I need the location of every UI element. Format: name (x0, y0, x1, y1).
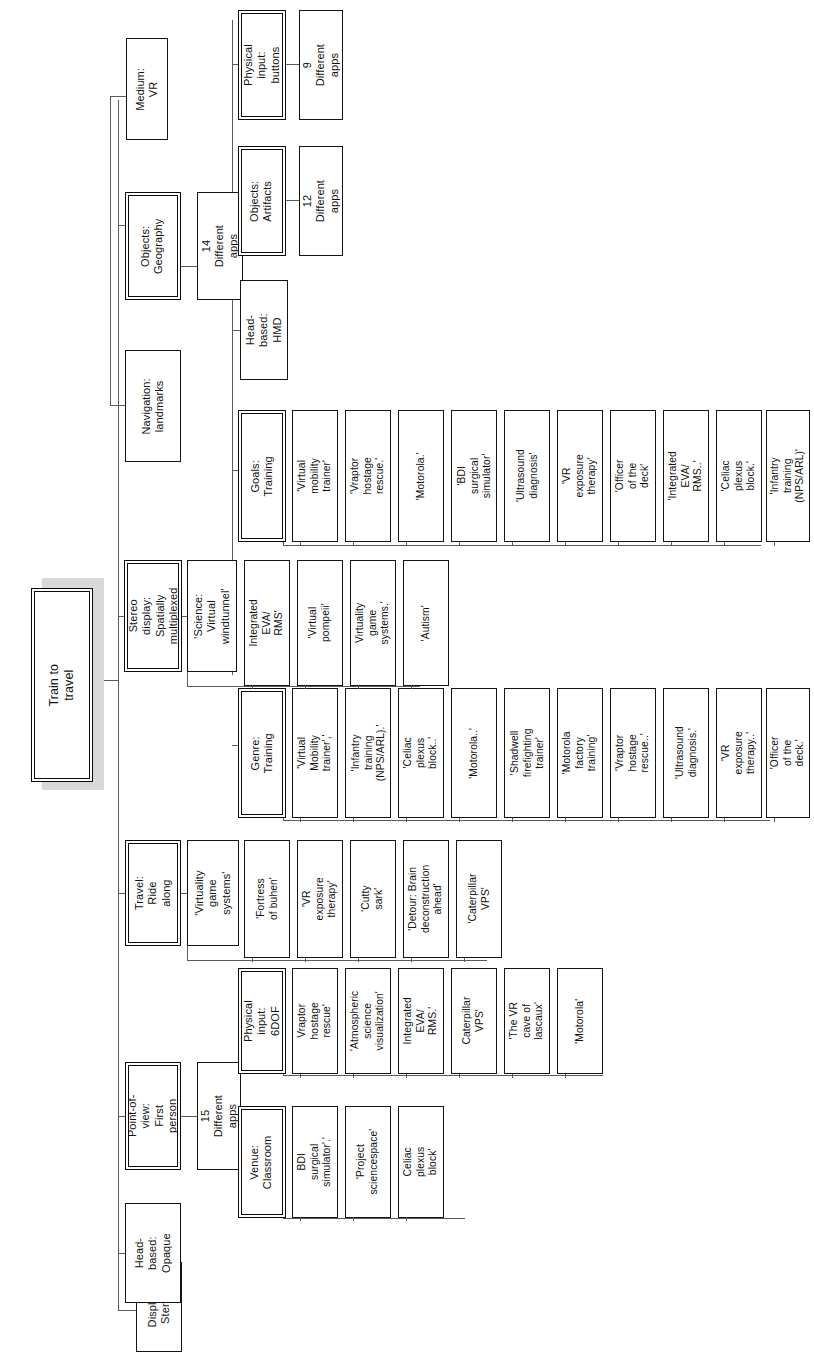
sixdof-item-0[interactable]: Vraptor hostage rescue' (292, 968, 338, 1074)
goals-item-9[interactable]: 'Infantry training (NPS/ARL)' (766, 410, 810, 542)
connector-pov-apps (180, 1116, 197, 1117)
tooth-travel-2 (358, 958, 359, 962)
goals-item-6[interactable]: 'Officer of the deck' (610, 410, 656, 542)
venue-item-0-label: BDI surgical simulator'.' (296, 1137, 334, 1187)
bracket-upper-top (110, 96, 119, 97)
goals-item-0[interactable]: 'Virtual mobility trainer' (292, 410, 338, 542)
venue-item-1-label: 'Project sciencespace' (355, 1129, 380, 1195)
venue-item-2-label: Celiac plexus block' (402, 1140, 440, 1184)
goals-item-4[interactable]: 'Ultrasound diagnosis' (504, 410, 550, 542)
genre-item-4[interactable]: 'Shadwell firefighting trainer' (504, 688, 550, 818)
branch-travel-child-virtuality-label: 'Virtuality game systems' (193, 868, 233, 918)
genre-item-0[interactable]: 'Virtual Mobility trainer',' (292, 688, 338, 818)
genre-item-5-label: 'Motorola factory training' (561, 731, 599, 775)
science-item-3[interactable]: 'Autism' (403, 560, 449, 686)
venue-item-1[interactable]: 'Project sciencespace' (345, 1106, 391, 1218)
tooth-travel-3 (411, 958, 412, 962)
branch-head-opaque[interactable]: Head-based: Opaque (125, 1203, 181, 1303)
venue-item-2[interactable]: Celiac plexus block' (398, 1106, 444, 1218)
bracket-upper-bottom (110, 405, 119, 406)
travel-item-0[interactable]: 'Fortress of buhen' (244, 840, 290, 958)
branch-pov-child-apps[interactable]: 15 Different apps (197, 1062, 241, 1170)
tooth-6dof-4 (512, 1074, 513, 1078)
branch-geography-child-apps[interactable]: 14 Different apps (197, 192, 243, 300)
genre-item-8[interactable]: 'VR exposure therapy..' (716, 688, 762, 818)
sixdof-item-1[interactable]: 'Atmospheric science visualization' (345, 968, 391, 1074)
travel-item-3[interactable]: 'Detour: Brain deconstruction ahead' (403, 840, 449, 958)
tooth-6dof-5 (565, 1074, 566, 1078)
tooth-goals-6 (618, 542, 619, 546)
rail-travel-items (187, 960, 487, 961)
branch-travel-child-virtuality[interactable]: 'Virtuality game systems' (187, 840, 239, 946)
branch-travel-ride-along[interactable]: Travel: Ride along (125, 840, 181, 946)
tooth-genre-4 (512, 818, 513, 822)
tooth-goals-7 (671, 542, 672, 546)
genre-item-8-label: 'VR exposure therapy..' (720, 731, 758, 775)
tooth-goals-8 (724, 542, 725, 546)
branch-objects-geography[interactable]: Objects: Geography (125, 192, 181, 300)
spine-stub-medium (118, 96, 126, 97)
group-header-genre-training[interactable]: Genre: Training (238, 688, 286, 818)
rail-genre (283, 820, 770, 821)
sixdof-item-3[interactable]: Caterpillar VPS' (451, 968, 497, 1074)
branch-medium-vr[interactable]: Medium: VR (126, 38, 168, 140)
sixdof-item-0-label: Vraptor hostage rescue' (296, 999, 334, 1043)
branch-travel-ride-along-label: Travel: Ride along (133, 869, 173, 917)
goals-item-1[interactable]: 'Vraptor hostage rescue.' (345, 410, 391, 542)
group-header-goals-training[interactable]: Goals: Training (238, 410, 286, 542)
goals-item-5[interactable]: 'VR exposure therapy' (557, 410, 603, 542)
tooth-science-3 (411, 685, 412, 689)
genre-item-7[interactable]: 'Ultrasound diagnosis.' (663, 688, 709, 818)
branch-stereo-child-science[interactable]: 'Science: Virtual windtunnel' (187, 560, 237, 672)
trunk-spine (118, 100, 119, 1310)
travel-item-1-label: 'VR exposure therapy' (301, 877, 339, 921)
bracket-upper (110, 96, 111, 406)
genre-item-6-label: 'Vraptor hostage rescue..' (614, 731, 652, 775)
science-item-2[interactable]: Virtuality game systems.' (350, 560, 396, 686)
genre-item-6[interactable]: 'Vraptor hostage rescue..' (610, 688, 656, 818)
travel-item-2[interactable]: 'Cutty sark' (350, 840, 396, 958)
group-header-physical-input-buttons-label: Physical input: buttons (242, 44, 282, 86)
connector-geography-apps (180, 266, 197, 267)
tooth-goals-5 (565, 542, 566, 546)
sixdof-item-5[interactable]: 'Motorola' (557, 968, 603, 1074)
science-item-0[interactable]: Integrated EVA/ RMS' (244, 560, 290, 686)
group-item-9-different-apps[interactable]: 9 Different apps (299, 10, 343, 120)
group-item-12-different-apps[interactable]: 12 Different apps (299, 146, 343, 256)
science-item-1[interactable]: 'Virtual pompeii' (297, 560, 343, 686)
root-node[interactable]: Train to travel (31, 588, 93, 782)
tooth-genre-2 (406, 818, 407, 822)
goals-item-8[interactable]: 'Celiac plexus block.' (716, 410, 762, 542)
branch-stereo-display[interactable]: Stereo display: Spatially multiplexed (124, 560, 182, 672)
goals-item-3[interactable]: 'BDI surgical simulator' (451, 410, 497, 542)
group-header-venue-classroom[interactable]: Venue: Classroom (238, 1106, 286, 1218)
sixdof-item-4-label: 'The VR cave of lascaux' (508, 999, 546, 1043)
tooth-travel-4 (464, 958, 465, 962)
genre-item-1[interactable]: 'Infantry training (NPS/ARL).' (345, 688, 391, 818)
group-header-head-based-hmd[interactable]: Head-based: HMD (240, 280, 288, 380)
genre-item-3[interactable]: 'Motorola..' (451, 688, 497, 818)
goals-item-2-label: 'Motorola.' (415, 452, 428, 500)
sixdof-item-2[interactable]: Integrated EVA/ RMS.' (398, 968, 444, 1074)
genre-item-9[interactable]: 'Officer of the deck.' (766, 688, 810, 818)
group-header-objects-artifacts[interactable]: Objects: Artifacts (238, 146, 286, 256)
genre-item-5[interactable]: 'Motorola factory training' (557, 688, 603, 818)
goals-item-9-label: 'Infantry training (NPS/ARL)' (769, 449, 807, 503)
genre-item-7-label: 'Ultrasound diagnosis.' (673, 727, 698, 780)
sixdof-item-1-label: 'Atmospheric science visualization' (349, 991, 387, 1051)
tooth-genre-5 (565, 818, 566, 822)
venue-item-0[interactable]: BDI surgical simulator'.' (292, 1106, 338, 1218)
branch-navigation-landmarks[interactable]: Navigation: landmarks (125, 350, 181, 462)
sixdof-item-4[interactable]: 'The VR cave of lascaux' (504, 968, 550, 1074)
spine-stub-display-stereo (118, 1310, 136, 1311)
travel-item-1[interactable]: 'VR exposure therapy' (297, 840, 343, 958)
tooth-goals-9 (774, 542, 775, 546)
group-header-physical-input-6dof[interactable]: Physical input: 6DOF (238, 968, 286, 1074)
goals-item-2[interactable]: 'Motorola.' (398, 410, 444, 542)
travel-item-4[interactable]: 'Caterpillar VPS' (456, 840, 502, 958)
root-label: Train to travel (47, 658, 78, 712)
goals-item-7[interactable]: 'Integrated EVA/ RMS..' (663, 410, 709, 542)
genre-item-2[interactable]: 'Celiac plexus block..' (398, 688, 444, 818)
group-header-physical-input-buttons[interactable]: Physical input: buttons (238, 10, 286, 120)
branch-point-of-view[interactable]: Point-of-view: First person (125, 1062, 181, 1170)
